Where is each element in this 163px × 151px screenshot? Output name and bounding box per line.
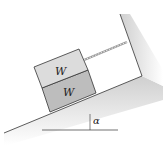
lower-block-label: W [63,86,76,99]
angle-label: α [93,115,100,126]
upper-block-label: W [55,65,68,78]
incline-diagram: W W α [0,0,163,151]
